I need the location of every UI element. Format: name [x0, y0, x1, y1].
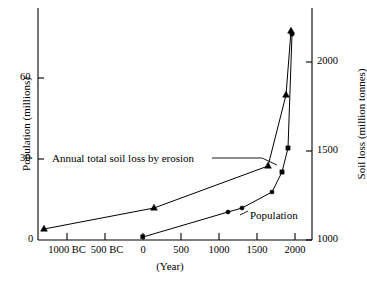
x-axis-title: (Year): [0, 261, 340, 272]
x-tick-label-1000: 1000: [209, 244, 230, 255]
series-population: [141, 32, 295, 239]
x-tick-label-1500: 1500: [247, 244, 268, 255]
data-point-marker: [265, 162, 272, 168]
data-point-marker: [280, 170, 284, 174]
data-point-marker: [283, 91, 290, 97]
annotation-population: Population: [250, 209, 298, 221]
y2-tick-label-2000: 2000: [317, 56, 338, 67]
y2-axis-title: Soil loss (million tonnes): [355, 44, 367, 204]
population-leader-line: [240, 211, 248, 215]
data-point-marker: [240, 206, 244, 210]
y2-tick-label-1000: 1000: [317, 234, 338, 245]
x-tick-label-500: 500: [173, 244, 189, 255]
y-axis-title: Population (millions): [20, 54, 32, 194]
y2-axis-ticks: [306, 62, 312, 240]
x-tick-label-0: 0: [140, 244, 145, 255]
x-tick-label-2000: 2000: [285, 244, 306, 255]
data-point-marker: [286, 146, 290, 150]
data-point-marker: [290, 32, 295, 37]
data-point-marker: [226, 210, 230, 214]
x-tick-label-500bc: 500 BC: [91, 244, 123, 255]
data-point-marker: [270, 190, 274, 194]
x-axis-ticks: [67, 233, 295, 240]
x-tick-label-1000bc: 1000 BC: [48, 244, 86, 255]
y2-tick-label-1500: 1500: [317, 145, 338, 156]
y-tick-label-0: 0: [28, 234, 33, 245]
y-axis-ticks: [38, 78, 44, 159]
annotation-soil-loss: Annual total soil loss by erosion: [52, 152, 194, 164]
data-point-marker: [141, 235, 145, 239]
